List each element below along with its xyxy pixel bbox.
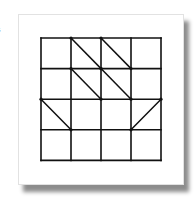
vertex-dot [129,67,132,70]
vertex-dot [129,128,132,131]
vertex-dot [69,67,72,70]
figure-card [18,14,184,185]
vertex-dot [39,98,42,101]
vertex-dot [129,98,132,101]
vertex-dot [99,98,102,101]
grid-diagram [19,15,183,184]
cell-diagonal-line [41,99,71,130]
vertex-dot [159,98,162,101]
cell-diagonal-line [131,99,161,130]
cell-diagonal-line [101,69,131,100]
vertex-dot [99,36,102,39]
vertex-dot [69,128,72,131]
vertex-dot [99,67,102,70]
vertex-dot [69,36,72,39]
cell-diagonal-line [71,38,101,69]
cell-diagonal-line [101,38,131,69]
cell-diagonal-line [71,69,101,100]
figure-stage: s [0,0,196,198]
edge-label: s [0,24,1,34]
